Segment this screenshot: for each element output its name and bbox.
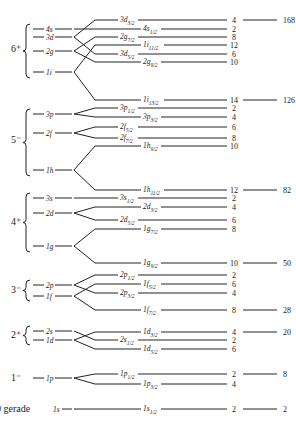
level-label: 1g <box>46 242 54 251</box>
split-level: 3d3/24 <box>95 15 236 26</box>
connector-line <box>74 374 95 378</box>
brace <box>23 326 30 345</box>
level-label: 1s <box>53 405 60 414</box>
shell-group: 3⁻2p1f <box>11 280 72 301</box>
split-level-label: 1p3/2 <box>143 379 158 390</box>
degeneracy: 6 <box>232 216 236 225</box>
split-level-label: 1g7/2 <box>143 224 158 235</box>
magic-number-label: 82 <box>283 186 291 195</box>
brace <box>23 280 30 301</box>
split-level-label: 1i11/2 <box>143 40 158 51</box>
split-level: 2g9/210 <box>95 57 238 68</box>
group-label: 2⁺ <box>11 329 21 340</box>
level-label: 1i <box>46 68 52 77</box>
shell-group: 1⁻1p <box>11 372 72 383</box>
degeneracy: 4 <box>232 380 236 389</box>
split-level: 1g7/28 <box>95 224 236 235</box>
magic-number: 82 <box>243 186 291 195</box>
connector-line <box>74 207 95 213</box>
split-level: 2d5/26 <box>95 215 236 226</box>
split-level-label: 3d3/2 <box>119 15 135 26</box>
split-level: 1h11/212 <box>95 185 238 196</box>
split-level: 2p3/24 <box>95 288 236 299</box>
split-level-label: 2d3/2 <box>143 202 158 213</box>
split-level-label: 3s1/2 <box>119 193 134 204</box>
degeneracy: 6 <box>232 345 236 354</box>
connector-line <box>74 133 95 138</box>
split-level: 1s1/22 <box>95 404 236 415</box>
degeneracy: 10 <box>230 142 238 151</box>
shell-group: 6⁺4s3d2g1i <box>11 24 72 78</box>
split-level-label: 1g9/2 <box>143 258 158 269</box>
split-level: 1d3/24 <box>95 327 236 338</box>
magic-number-label: 2 <box>283 405 287 414</box>
magic-number-label: 20 <box>283 328 291 337</box>
level-label: 3p <box>45 110 54 119</box>
split-level-label: 2g9/2 <box>143 57 158 68</box>
shell-group: 2⁺2s1d <box>11 326 72 345</box>
level-label: 3s <box>45 194 53 203</box>
magic-number: 50 <box>243 259 291 268</box>
split-level-label: 2g7/2 <box>120 32 135 43</box>
split-level: 1i13/214 <box>95 95 238 106</box>
split-level-label: 2f7/2 <box>120 133 133 144</box>
split-level: 1f5/26 <box>95 279 236 290</box>
connector-line <box>74 127 95 133</box>
connector-line <box>74 114 95 117</box>
degeneracy: 8 <box>232 306 236 315</box>
degeneracy: 4 <box>232 113 236 122</box>
degeneracy: 2 <box>232 194 236 203</box>
split-level-label: 3p3/2 <box>142 112 158 123</box>
connector-line <box>74 275 95 285</box>
level-label: 3d <box>45 33 54 42</box>
split-level-label: 2f5/2 <box>120 122 133 133</box>
connector-line <box>74 108 95 114</box>
magic-number-label: 126 <box>283 96 295 105</box>
degeneracy: 4 <box>232 16 236 25</box>
magic-number-label: 8 <box>283 370 287 379</box>
split-level: 1p1/22 <box>95 369 236 380</box>
split-level-label: 2s1/2 <box>120 335 134 346</box>
split-level: 1h9/210 <box>95 141 238 152</box>
shell-group: 5⁻3p2f1h <box>11 109 72 176</box>
connector-line <box>74 146 95 170</box>
degeneracy: 4 <box>232 289 236 298</box>
split-level: 1g9/210 <box>95 258 238 269</box>
split-level: 4s1/22 <box>95 24 236 35</box>
split-level: 2d3/24 <box>95 202 236 213</box>
magic-number-label: 28 <box>283 306 291 315</box>
level-label: 2s <box>46 327 53 336</box>
split-level: 2p1/22 <box>95 270 236 281</box>
splitting-connectors <box>74 20 95 409</box>
split-level-label: 1h11/2 <box>143 185 160 196</box>
split-level-label: 1f7/2 <box>143 305 156 316</box>
connector-line <box>74 378 95 384</box>
split-level: 2s1/22 <box>95 335 236 346</box>
split-level-label: 3p1/2 <box>119 103 135 114</box>
magic-number: 20 <box>243 328 291 337</box>
level-label: 1d <box>46 336 54 345</box>
magic-number: 126 <box>243 96 295 105</box>
level-label: 1p <box>46 374 54 383</box>
connector-line <box>74 72 95 100</box>
split-level: 1f7/28 <box>95 305 236 316</box>
level-label: 1h <box>46 166 54 175</box>
degeneracy: 2 <box>232 271 236 280</box>
connector-line <box>74 51 95 62</box>
degeneracy: 2 <box>232 104 236 113</box>
connector-line <box>74 246 95 263</box>
group-label: 0 gerade <box>0 403 31 414</box>
split-level-label: 2p3/2 <box>120 288 135 299</box>
split-level: 2g7/28 <box>95 32 236 43</box>
oscillator-shell-groups: 6⁺4s3d2g1i5⁻3p2f1h4⁺3s2d1g3⁻2p1f2⁺2s1d1⁻… <box>0 24 72 414</box>
split-level-label: 2d5/2 <box>120 215 135 226</box>
split-level: 3s1/22 <box>95 193 236 204</box>
degeneracy: 4 <box>232 203 236 212</box>
degeneracy: 2 <box>232 370 236 379</box>
magic-number: 28 <box>243 306 291 315</box>
split-level-label: 1i13/2 <box>143 95 159 106</box>
split-level-label: 1s1/2 <box>143 404 157 415</box>
group-label: 4⁺ <box>11 216 21 227</box>
magic-number-label: 168 <box>283 16 295 25</box>
degeneracy: 10 <box>230 58 238 67</box>
